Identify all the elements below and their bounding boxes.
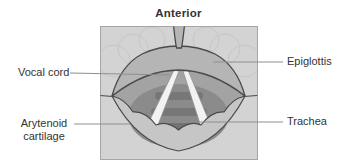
epiglottis-label: Epiglottis bbox=[287, 55, 332, 68]
trachea-label: Trachea bbox=[287, 115, 327, 128]
arytenoid-label-line1: Arytenoid bbox=[21, 117, 67, 129]
larynx-superior-view-figure: Anterior Vocal cord Epiglottis Trachea A… bbox=[0, 0, 355, 166]
vocal-cord-label: Vocal cord bbox=[18, 66, 69, 79]
arytenoid-label-line2: cartilage bbox=[23, 130, 65, 142]
anterior-orientation-label: Anterior bbox=[100, 7, 257, 20]
arytenoid-cartilage-label: Arytenoid cartilage bbox=[12, 117, 76, 143]
